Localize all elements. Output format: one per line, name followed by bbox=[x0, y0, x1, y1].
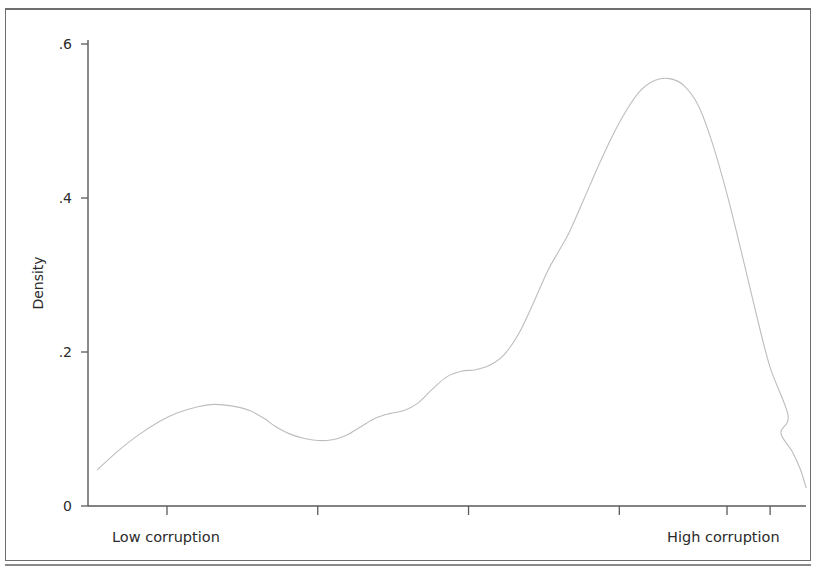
y-axis-title: Density bbox=[30, 256, 46, 309]
y-axis-tick-label-text: .6 bbox=[26, 36, 72, 52]
y-axis-tick-label-text: 0 bbox=[26, 498, 72, 514]
y-axis-tick-label-text: .2 bbox=[26, 344, 72, 360]
x-axis-label-low: Low corruption bbox=[112, 529, 220, 545]
y-axis-tick-label: .2 bbox=[26, 344, 72, 360]
y-axis-tick-label: 0 bbox=[26, 498, 72, 514]
density-plot-svg bbox=[0, 0, 817, 574]
y-axis-tick-label: .4 bbox=[26, 190, 72, 206]
figure-container: 0.2.4.6 Density Low corruption High corr… bbox=[0, 0, 817, 574]
x-axis-ticks bbox=[167, 506, 770, 515]
density-curve bbox=[97, 78, 806, 487]
plot-area bbox=[0, 0, 817, 574]
y-axis-tick-label-text: .4 bbox=[26, 190, 72, 206]
y-axis-ticks bbox=[81, 44, 88, 506]
x-axis-label-high: High corruption bbox=[667, 529, 780, 545]
y-axis-tick-label: .6 bbox=[26, 36, 72, 52]
